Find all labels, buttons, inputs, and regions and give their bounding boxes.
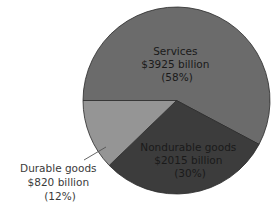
- durable-value: $820 billion: [28, 176, 89, 188]
- services-value: $3925 billion: [141, 58, 209, 70]
- services-percent: (58%): [161, 71, 193, 83]
- pie-chart: Services $3925 billion (58%) Nondurable …: [0, 0, 272, 209]
- nondurable-percent: (30%): [174, 167, 206, 179]
- durable-percent: (12%): [44, 190, 76, 202]
- services-name: Services: [153, 45, 197, 57]
- nondurable-value: $2015 billion: [154, 154, 222, 166]
- durable-name: Durable goods: [20, 162, 97, 174]
- durable-label: Durable goods $820 billion (12%): [20, 162, 100, 202]
- nondurable-name: Nondurable goods: [140, 141, 236, 153]
